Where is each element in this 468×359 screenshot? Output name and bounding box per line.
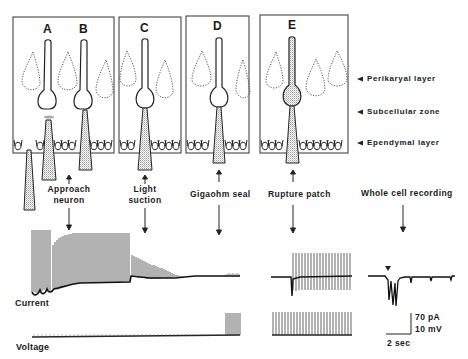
current-trace-approach (32, 230, 182, 293)
rupture-voltage-pulses (273, 312, 351, 335)
patch-clamp-figure: A B C D E Perikaryal layer Subcellular z… (0, 0, 468, 359)
voltage-pulses-seal (226, 313, 240, 335)
voltage-baseline (32, 335, 240, 337)
step-arrows (67, 170, 406, 235)
scale-label-current: 70 pA (415, 312, 440, 322)
step-label-light-suction: Light suction (125, 184, 165, 206)
panel-letter-d: D (213, 19, 222, 33)
panel-boxes (13, 15, 348, 153)
scale-label-time: 2 sec (387, 338, 410, 348)
layer-label-ependymal: Ependymal layer (367, 138, 440, 147)
layer-label-subcellular: Subcellular zone (367, 107, 440, 116)
trace-label-voltage: Voltage (16, 342, 49, 352)
trace-label-current: Current (15, 298, 49, 308)
scale-bar (386, 313, 411, 334)
step-label-whole-cell-recording: Whole cell recording (361, 188, 445, 199)
panel-letter-e: E (288, 18, 296, 32)
figure-drawing (0, 0, 468, 359)
panel-letter-a: A (43, 22, 52, 36)
layer-label-perikaryal: Perikaryal layer (367, 74, 436, 83)
target-neurons (38, 37, 301, 109)
step-label-rupture-patch: Rupture patch (268, 189, 320, 200)
scale-label-voltage: 10 mV (415, 324, 442, 334)
step-label-gigaohm-seal: Gigaohm seal (190, 189, 250, 200)
layer-arrowheads (357, 77, 363, 146)
panel-letter-b: B (79, 22, 88, 36)
patch-dimple (44, 116, 54, 119)
panel-letter-c: C (140, 21, 149, 35)
whole-cell-current-trace (368, 276, 455, 306)
rupture-current-baseline (271, 276, 352, 296)
step-label-approach-neuron: Approach neuron (46, 184, 92, 206)
rupture-current-pulses (293, 253, 350, 291)
stimulus-marker-icon (385, 266, 391, 271)
